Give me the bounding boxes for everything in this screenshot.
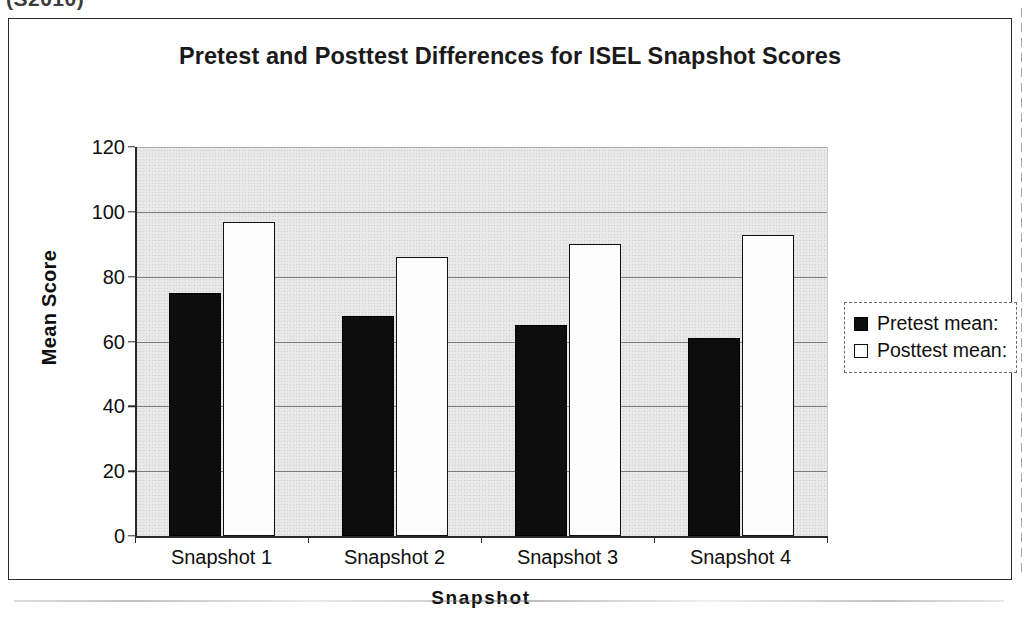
y-axis-tick-label: 40 (69, 395, 125, 418)
legend: Pretest mean:Posttest mean: (844, 302, 1017, 373)
y-axis-tick-label: 100 (69, 200, 125, 223)
x-axis-tick-mark (481, 536, 482, 543)
legend-item-1: Pretest mean: (854, 310, 1007, 337)
y-axis-tick-mark (128, 535, 135, 536)
clipped-header-text: (S2010) (6, 0, 84, 11)
bar-posttest-1 (223, 222, 275, 536)
x-axis-label-2: Snapshot 2 (308, 546, 481, 569)
y-axis-tick-label: 20 (69, 460, 125, 483)
legend-item-2: Posttest mean: (854, 337, 1007, 364)
x-axis-tick-mark (827, 536, 828, 543)
scan-artifact-bottom (14, 600, 1004, 602)
x-axis-tick-mark (308, 536, 309, 543)
x-axis-label-1: Snapshot 1 (135, 546, 308, 569)
scan-artifact-right-edge (1021, 8, 1022, 578)
y-axis-tick-mark (128, 341, 135, 342)
legend-label: Pretest mean: (877, 312, 998, 335)
x-axis-title: Snapshot (135, 587, 827, 609)
y-axis-tick-mark (128, 276, 135, 277)
x-axis-labels: Snapshot 1Snapshot 2Snapshot 3Snapshot 4 (135, 546, 827, 569)
y-axis-tick-mark (128, 211, 135, 212)
bar-posttest-4 (742, 235, 794, 536)
legend-swatch-hollow-icon (854, 344, 868, 358)
legend-label: Posttest mean: (877, 339, 1007, 362)
y-axis-tick-mark (128, 146, 135, 147)
x-axis-label-3: Snapshot 3 (481, 546, 654, 569)
y-axis-tick-label: 60 (69, 330, 125, 353)
y-axis-tick-label: 80 (69, 265, 125, 288)
bar-pretest-2 (342, 316, 394, 536)
chart-frame: Pretest and Posttest Differences for ISE… (8, 18, 1012, 580)
plot-right-edge (827, 147, 828, 537)
bar-pretest-4 (688, 338, 740, 536)
y-axis-title: Mean Score (38, 238, 61, 378)
y-axis-ticks: 120100806040200 (57, 147, 125, 536)
gridline (135, 212, 827, 213)
plot-area (135, 147, 827, 536)
bar-pretest-1 (169, 293, 221, 536)
y-axis-line (135, 147, 137, 537)
x-axis-tick-mark (135, 536, 136, 543)
legend-swatch-filled-icon (854, 317, 868, 331)
plot-top-border (135, 147, 827, 148)
y-axis-tick-label: 120 (69, 136, 125, 159)
bar-pretest-3 (515, 325, 567, 536)
chart-title: Pretest and Posttest Differences for ISE… (9, 43, 1011, 70)
y-axis-tick-mark (128, 470, 135, 471)
x-axis-label-4: Snapshot 4 (654, 546, 827, 569)
y-axis-tick-mark (128, 406, 135, 407)
bar-posttest-2 (396, 257, 448, 536)
y-axis-tick-label: 0 (69, 525, 125, 548)
bar-posttest-3 (569, 244, 621, 536)
x-axis-tick-mark (654, 536, 655, 543)
